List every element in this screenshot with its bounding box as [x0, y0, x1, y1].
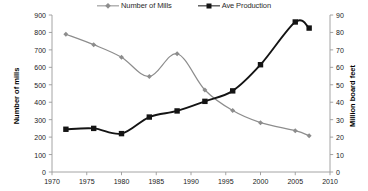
- x-tick-label: 1990: [183, 178, 199, 185]
- y-tick-label-right: 90: [336, 12, 344, 19]
- y-tick-label-right: 70: [336, 46, 344, 53]
- y-tick-label-left: 100: [0, 151, 46, 158]
- y-tick-label-right: 30: [336, 116, 344, 123]
- plot-area: [52, 15, 330, 172]
- y-tick-label-left: 200: [0, 134, 46, 141]
- y-tick-label-left: 600: [0, 64, 46, 71]
- y-tick-label-right: 60: [336, 64, 344, 71]
- legend-label-number-of-mills: Number of Mills: [121, 1, 172, 10]
- square-marker-icon: [198, 2, 220, 9]
- plot-svg: [52, 15, 330, 172]
- x-tick-label: 2000: [253, 178, 269, 185]
- x-tick-label: 1970: [44, 178, 60, 185]
- chart-legend: Number of Mills Ave Production: [0, 1, 368, 10]
- y-tick-label-left: 800: [0, 29, 46, 36]
- y-tick-label-right: 10: [336, 151, 344, 158]
- legend-label-ave-production: Ave Production: [222, 1, 271, 10]
- y-tick-label-left: 400: [0, 99, 46, 106]
- y-tick-label-right: 50: [336, 81, 344, 88]
- diamond-marker-icon: [97, 2, 119, 9]
- legend-item-ave-production[interactable]: Ave Production: [198, 1, 271, 10]
- y-tick-label-left: 0: [0, 169, 46, 176]
- legend-item-number-of-mills[interactable]: Number of Mills: [97, 1, 172, 10]
- y-tick-label-left: 900: [0, 12, 46, 19]
- y-tick-label-right: 80: [336, 29, 344, 36]
- y-tick-label-left: 300: [0, 116, 46, 123]
- series-ave-production: [63, 19, 312, 136]
- y-axis-left-title: Number of mills: [12, 46, 21, 146]
- x-tick-label: 1985: [148, 178, 164, 185]
- y-tick-label-right: 0: [336, 169, 340, 176]
- y-axis-right-title: Million board feet: [348, 46, 357, 146]
- x-tick-label: 2005: [287, 178, 303, 185]
- y-tick-label-left: 700: [0, 46, 46, 53]
- y-tick-label-right: 20: [336, 134, 344, 141]
- x-tick-label: 1975: [79, 178, 95, 185]
- x-tick-label: 1995: [218, 178, 234, 185]
- y-tick-label-left: 500: [0, 81, 46, 88]
- line-chart: Number of Mills Ave Production Number of…: [0, 0, 368, 191]
- x-tick-label: 1980: [114, 178, 130, 185]
- y-tick-label-right: 40: [336, 99, 344, 106]
- x-tick-label: 2010: [322, 178, 338, 185]
